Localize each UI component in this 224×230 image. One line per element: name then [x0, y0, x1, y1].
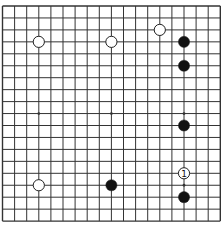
- black-stone-disc: [106, 180, 117, 191]
- white-stone-disc: [33, 36, 44, 47]
- black-stone[interactable]: [178, 120, 189, 131]
- star-point: [110, 112, 113, 115]
- star-point: [37, 112, 40, 115]
- black-stone[interactable]: [178, 60, 189, 71]
- star-point: [183, 112, 186, 115]
- black-stone-disc: [178, 60, 189, 71]
- black-stone[interactable]: [178, 192, 189, 203]
- star-point: [183, 184, 186, 187]
- white-stone-disc: [106, 36, 117, 47]
- white-stone[interactable]: 1: [178, 168, 189, 179]
- black-stone-disc: [178, 120, 189, 131]
- black-stone[interactable]: [178, 36, 189, 47]
- black-stone-disc: [178, 192, 189, 203]
- go-board[interactable]: 1: [0, 0, 224, 230]
- white-stone[interactable]: [33, 36, 44, 47]
- white-stone[interactable]: [33, 180, 44, 191]
- black-stone-disc: [178, 36, 189, 47]
- black-stone[interactable]: [106, 180, 117, 191]
- white-stone[interactable]: [154, 24, 165, 35]
- white-stone-disc: [154, 24, 165, 35]
- white-stone[interactable]: [106, 36, 117, 47]
- move-number-label: 1: [181, 169, 187, 179]
- white-stone-disc: [33, 180, 44, 191]
